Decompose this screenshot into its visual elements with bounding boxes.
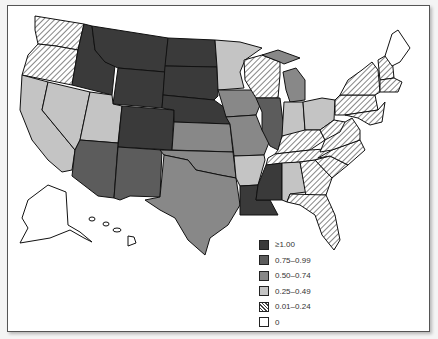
legend-item: 0	[259, 315, 311, 331]
state-wy	[113, 68, 165, 108]
legend-item: 0.01–0.24	[259, 299, 311, 315]
state-ks	[172, 122, 233, 152]
state-nd	[165, 38, 217, 67]
legend-label: ≥1.00	[275, 240, 295, 249]
legend-label: 0.75–0.99	[275, 256, 311, 265]
state-hi-4	[128, 236, 136, 246]
legend-label: 0.25–0.49	[275, 287, 311, 296]
legend-label: 0.50–0.74	[275, 271, 311, 280]
state-mi	[283, 68, 305, 102]
legend-swatch	[259, 286, 269, 296]
legend-swatch-hatched	[259, 302, 269, 312]
legend-item: 0.50–0.74	[259, 268, 311, 284]
state-nm	[114, 147, 162, 200]
state-hi-2	[103, 222, 109, 226]
legend-swatch	[259, 255, 269, 265]
state-hi-1	[89, 217, 95, 221]
legend-swatch	[259, 240, 269, 250]
us-choropleth-map	[0, 0, 438, 339]
legend-item: ≥1.00	[259, 237, 311, 253]
legend-item: 0.75–0.99	[259, 253, 311, 269]
state-co	[118, 106, 174, 150]
legend-label: 0	[275, 318, 279, 327]
state-ma-ct-ri	[380, 78, 402, 92]
legend-swatch	[259, 271, 269, 281]
state-sd	[163, 66, 218, 100]
legend-label: 0.01–0.24	[275, 302, 311, 311]
state-az	[72, 140, 118, 198]
legend-swatch	[259, 317, 269, 327]
state-me	[385, 30, 410, 66]
state-ny	[340, 62, 380, 95]
legend: ≥1.00 0.75–0.99 0.50–0.74 0.25–0.49 0.01…	[259, 237, 311, 330]
legend-item: 0.25–0.49	[259, 284, 311, 300]
state-ak	[20, 185, 92, 243]
state-hi-3	[113, 228, 121, 232]
